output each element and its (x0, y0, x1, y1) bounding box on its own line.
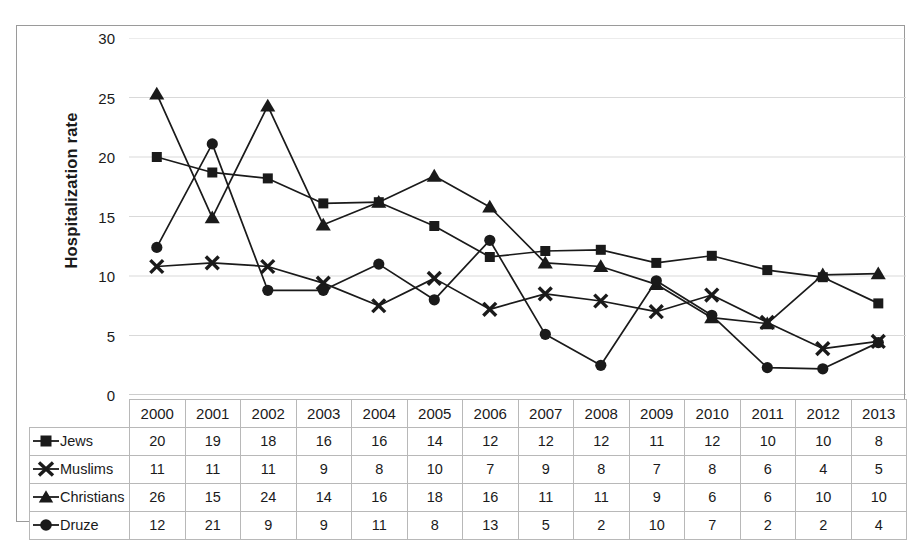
data-cell: 10 (407, 456, 463, 484)
marker-square-jews-2010 (707, 251, 717, 261)
marker-triangle-christians-2005 (427, 169, 442, 182)
series-label-text: Muslims (60, 461, 113, 477)
year-header-2010: 2010 (685, 400, 741, 428)
marker-square-jews-2013 (873, 298, 883, 308)
marker-square-jews-2002 (263, 173, 273, 183)
marker-square-jews-2000 (152, 152, 162, 162)
table-row: Christians2615241416181611119661010 (30, 484, 907, 512)
year-header-2005: 2005 (407, 400, 463, 428)
data-cell: 19 (185, 428, 241, 456)
data-cell: 11 (241, 456, 297, 484)
marker-triangle-christians-2002 (260, 99, 275, 112)
marker-circle-druze-2013 (873, 337, 884, 348)
data-cell: 4 (851, 512, 907, 540)
y-tick-label-30: 30 (98, 31, 115, 46)
data-cell: 9 (518, 456, 574, 484)
marker-circle-druze-2001 (207, 138, 218, 149)
year-header-2008: 2008 (574, 400, 630, 428)
data-cell: 26 (130, 484, 186, 512)
legend-marker-square-icon (33, 433, 59, 449)
data-cell: 6 (740, 456, 796, 484)
data-cell: 18 (241, 428, 297, 456)
series-label-cell-muslims: Muslims (30, 456, 130, 484)
series-jews (152, 152, 884, 308)
data-cell: 16 (352, 428, 408, 456)
data-cell: 11 (130, 456, 186, 484)
data-cell: 14 (407, 428, 463, 456)
series-label-text: Christians (60, 489, 124, 505)
marker-x-muslims-2006 (483, 303, 496, 316)
data-cell: 8 (407, 512, 463, 540)
marker-circle-druze-2012 (817, 363, 828, 374)
year-header-2011: 2011 (740, 400, 796, 428)
marker-square-jews-2001 (207, 168, 217, 178)
table-row: Jews201918161614121212111210108 (30, 428, 907, 456)
series-label-text: Jews (60, 433, 93, 449)
year-header-2013: 2013 (851, 400, 907, 428)
data-table-body: Jews201918161614121212111210108Muslims11… (30, 428, 907, 540)
y-tick-label-20: 20 (98, 150, 115, 165)
data-cell: 16 (296, 428, 352, 456)
data-cell: 2 (574, 512, 630, 540)
marker-square-jews-2009 (651, 258, 661, 268)
data-cell: 5 (851, 456, 907, 484)
marker-x-muslims-2005 (428, 272, 441, 285)
data-cell: 9 (296, 456, 352, 484)
data-table: 2000200120022003200420052006200720082009… (29, 399, 907, 540)
data-cell: 7 (629, 456, 685, 484)
data-cell: 18 (407, 484, 463, 512)
data-cell: 15 (185, 484, 241, 512)
marker-triangle-christians-2013 (871, 266, 886, 279)
data-cell: 8 (574, 456, 630, 484)
series-druze (151, 138, 884, 374)
data-cell: 16 (352, 484, 408, 512)
data-cell: 8 (352, 456, 408, 484)
year-header-2007: 2007 (518, 400, 574, 428)
y-axis-tick-labels: 302520151050 (17, 26, 123, 406)
data-cell: 10 (796, 484, 852, 512)
table-row: Muslims111111981079878645 (30, 456, 907, 484)
data-cell: 6 (685, 484, 741, 512)
series-label-text: Druze (60, 517, 99, 533)
marker-x-muslims-2010 (705, 289, 718, 302)
marker-circle-druze-2003 (318, 285, 329, 296)
data-cell: 10 (629, 512, 685, 540)
marker-square-jews-2007 (540, 246, 550, 256)
data-cell: 5 (518, 512, 574, 540)
data-cell: 14 (296, 484, 352, 512)
table-row: Druze1221991181352107224 (30, 512, 907, 540)
y-tick-label-10: 10 (98, 269, 115, 284)
data-cell: 11 (185, 456, 241, 484)
legend-marker-circle-icon (33, 517, 59, 533)
marker-triangle-christians-2004 (371, 195, 386, 208)
data-cell: 10 (796, 428, 852, 456)
data-cell: 9 (241, 512, 297, 540)
marker-square-jews-2011 (762, 265, 772, 275)
legend-marker-triangle-icon (33, 489, 59, 505)
data-cell: 24 (241, 484, 297, 512)
marker-square-jews-2006 (485, 252, 495, 262)
marker-triangle-christians-2003 (316, 218, 331, 231)
data-table-header: 2000200120022003200420052006200720082009… (30, 400, 907, 428)
marker-square-jews-2005 (429, 221, 439, 231)
data-cell: 12 (463, 428, 519, 456)
series-christians (149, 87, 886, 329)
gridlines (129, 38, 906, 395)
marker-x-muslims-2004 (372, 299, 385, 312)
data-cell: 2 (740, 512, 796, 540)
year-header-2002: 2002 (241, 400, 297, 428)
marker-circle-druze-2004 (373, 259, 384, 270)
marker-square-jews-2008 (596, 245, 606, 255)
data-cell: 7 (463, 456, 519, 484)
data-cell: 11 (518, 484, 574, 512)
y-tick-label-5: 5 (107, 329, 115, 344)
data-cell: 8 (685, 456, 741, 484)
data-cell: 13 (463, 512, 519, 540)
marker-triangle-christians-2006 (482, 200, 497, 213)
year-header-2009: 2009 (629, 400, 685, 428)
series-label-cell-christians: Christians (30, 484, 130, 512)
marker-square-jews-2003 (318, 198, 328, 208)
year-header-2000: 2000 (130, 400, 186, 428)
chart-outer-frame: Hospitalization rate 302520151050 200020… (16, 25, 905, 522)
data-cell: 9 (629, 484, 685, 512)
